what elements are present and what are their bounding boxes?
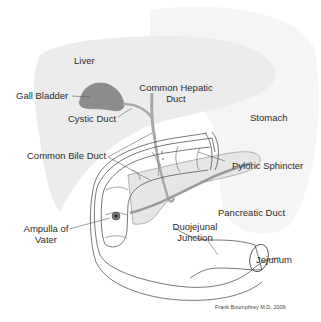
label-common-bile-duct: Common Bile Duct xyxy=(27,150,106,161)
label-duojejunal-line2: Junction xyxy=(167,232,223,243)
label-pancreatic-duct: Pancreatic Duct xyxy=(218,207,285,218)
label-ampulla-line1: Ampulla of xyxy=(18,223,74,234)
label-jejunum: Jejunum xyxy=(256,254,292,265)
label-common-hepatic-duct-line2: Duct xyxy=(130,93,222,104)
anatomy-diagram: Liver Gall Bladder Common Hepatic Duct C… xyxy=(0,0,321,322)
label-pyloric-sphincter: Pyloric Sphincter xyxy=(232,160,303,171)
label-common-hepatic-duct: Common Hepatic Duct xyxy=(130,82,222,104)
label-ampulla-of-vater: Ampulla of Vater xyxy=(18,223,74,245)
label-duojejunal-line1: Duojejunal xyxy=(167,221,223,232)
credit-text: Frank Boumphrey M.D. 2009 xyxy=(215,302,286,313)
label-ampulla-line2: Vater xyxy=(18,234,74,245)
label-common-hepatic-duct-line1: Common Hepatic xyxy=(130,82,222,93)
label-liver: Liver xyxy=(74,55,95,66)
label-stomach: Stomach xyxy=(250,112,288,123)
label-gall-bladder: Gall Bladder xyxy=(16,90,68,101)
label-duojejunal-junction: Duojejunal Junction xyxy=(167,221,223,243)
label-cystic-duct: Cystic Duct xyxy=(68,113,116,124)
